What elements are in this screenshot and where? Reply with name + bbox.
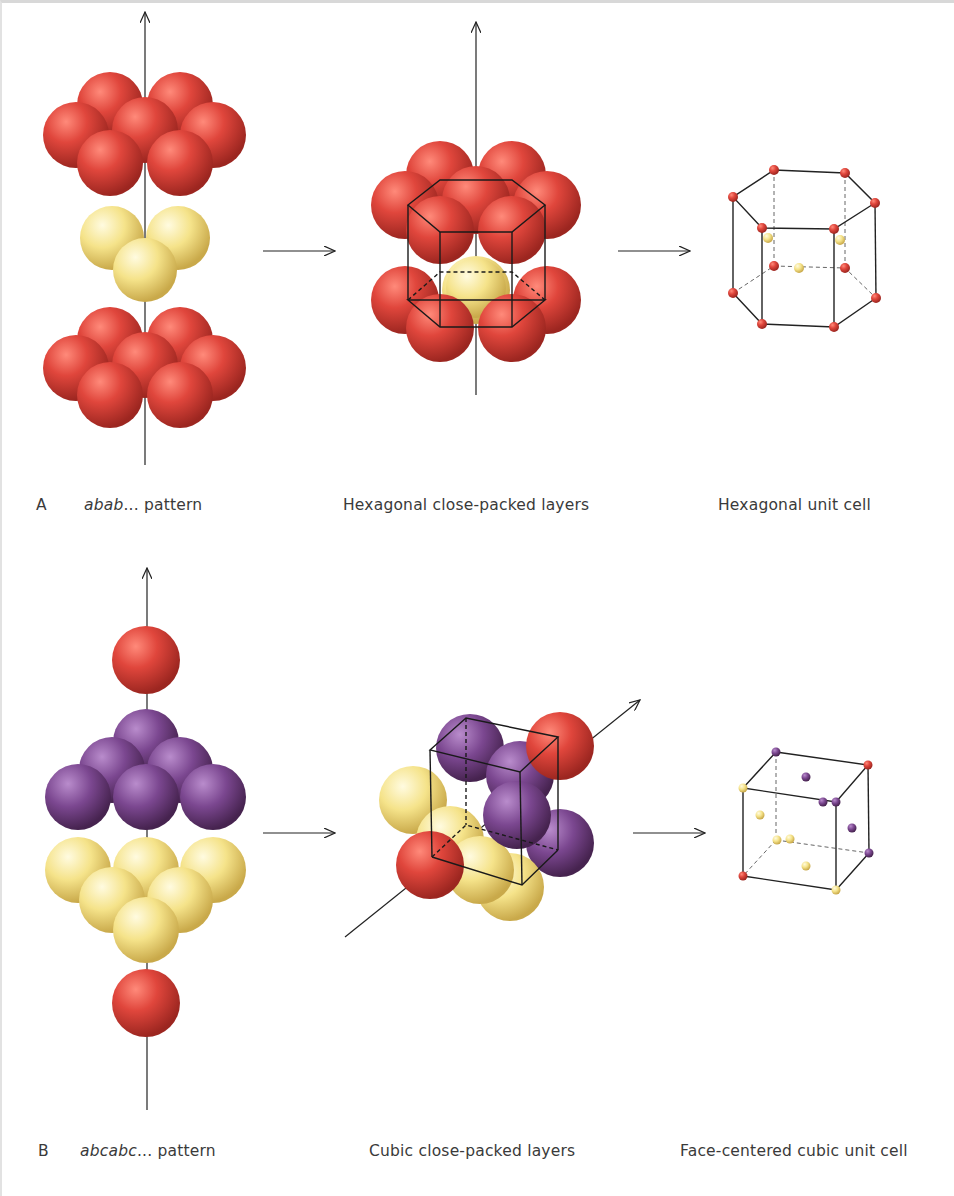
hexagonal-unit-cell xyxy=(728,165,881,332)
panel-a-middle-caption: Hexagonal close-packed layers xyxy=(343,496,589,514)
stacking-sequence: abcabc xyxy=(80,1142,137,1160)
panel-a xyxy=(43,12,881,465)
panel-b-letter: B xyxy=(38,1142,49,1160)
stacking-suffix: ... pattern xyxy=(123,496,202,514)
hcp-layer-stack xyxy=(43,12,246,465)
panel-a-letter: A xyxy=(36,496,47,514)
panel-b-stacking-caption: abcabc... pattern xyxy=(80,1142,216,1160)
panel-a-stacking-caption: abab... pattern xyxy=(84,496,202,514)
ccp-packed-layers xyxy=(345,700,640,937)
panel-b xyxy=(45,568,874,1110)
hcp-packed-layers xyxy=(371,22,581,395)
ccp-layer-stack xyxy=(45,568,246,1110)
stacking-suffix: ... pattern xyxy=(137,1142,216,1160)
panel-a-right-caption: Hexagonal unit cell xyxy=(718,496,871,514)
fcc-unit-cell xyxy=(739,748,874,895)
panel-b-right-caption: Face-centered cubic unit cell xyxy=(680,1142,908,1160)
panel-b-middle-caption: Cubic close-packed layers xyxy=(369,1142,575,1160)
stacking-sequence: abab xyxy=(84,496,123,514)
